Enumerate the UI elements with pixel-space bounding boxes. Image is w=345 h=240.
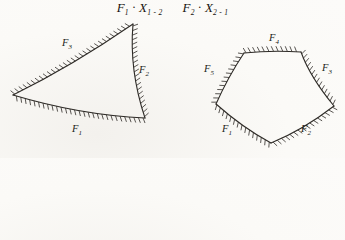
hatch-tick: [117, 29, 122, 32]
hatch-tick: [133, 29, 138, 31]
hatch-tick: [61, 107, 62, 112]
hatch-tick: [233, 119, 234, 124]
hatch-tick: [305, 58, 309, 62]
hatch-tick: [138, 118, 140, 123]
hatch-tick: [271, 46, 273, 51]
hatch-tick: [273, 142, 277, 146]
hatch-tick: [90, 46, 95, 49]
hatch-tick: [79, 111, 80, 116]
hatch-tick: [332, 107, 337, 110]
hatch-tick: [133, 56, 138, 59]
hatch-tick: [19, 87, 23, 90]
hatch-tick: [145, 113, 149, 117]
hatch-tick: [70, 109, 71, 114]
hatch-tick: [309, 66, 312, 70]
hatch-tick: [235, 57, 240, 58]
hatch-tick: [295, 47, 297, 52]
hatch-tick: [102, 39, 107, 42]
edge-label-f4: F4: [268, 32, 279, 46]
hatch-tick: [79, 53, 84, 56]
hatch-tick: [282, 138, 286, 142]
hatch-tick: [134, 117, 136, 122]
edge-label-f1: F1: [221, 123, 232, 137]
hatch-tick: [231, 65, 236, 66]
hatch-tick: [317, 118, 322, 121]
hatch-tick: [120, 116, 122, 121]
hatch-tick: [249, 130, 250, 135]
hatch-tick: [132, 47, 137, 49]
hatch-tick: [88, 112, 89, 117]
hatch-tick: [277, 140, 281, 144]
hatch-tick: [329, 110, 334, 113]
hatch-tick: [125, 23, 130, 26]
hatch-tick: [248, 48, 251, 53]
hatch-tick: [285, 46, 287, 51]
edge-f5: [216, 53, 244, 104]
hatch-tick: [67, 60, 72, 63]
hatch-tick: [228, 69, 233, 70]
hatch-tick: [52, 105, 53, 110]
hatch-tick: [307, 62, 310, 66]
hatch-tick: [253, 133, 254, 138]
edge-label-f3: F3: [321, 62, 332, 76]
hatch-tick: [302, 50, 306, 54]
hatch-tick: [106, 115, 108, 120]
hatch-tick: [325, 113, 330, 116]
hatch-tick: [143, 109, 147, 113]
curvilinear-pentagon: F4F3F2F1F5: [203, 32, 337, 148]
hatch-tick: [43, 103, 44, 108]
hatch-tick: [142, 104, 146, 108]
hatch-tick: [137, 87, 141, 90]
edge-f3: [301, 52, 334, 106]
hatch-tick: [314, 121, 319, 124]
hatch-tick: [243, 48, 246, 53]
edge-f1: [13, 95, 145, 118]
hatch-tick: [113, 31, 118, 34]
hatch-tick: [222, 111, 223, 116]
hatch-tick: [312, 70, 315, 74]
hatch-tick: [233, 61, 238, 62]
hatch-tick: [39, 76, 43, 79]
hatch-tick: [102, 114, 104, 119]
hatch-tick: [290, 134, 294, 137]
hatch-tick: [27, 82, 31, 85]
hatch-tick: [51, 69, 55, 72]
hatch-tick: [11, 91, 15, 95]
hatch-tick: [303, 54, 307, 58]
hatch-tick: [98, 41, 103, 44]
hatch-tick: [75, 110, 76, 115]
hatch-tick: [56, 106, 57, 111]
hatch-tick: [134, 65, 139, 68]
hatch-tick: [86, 48, 91, 51]
hatch-tick: [129, 117, 131, 122]
hatch-tick: [35, 78, 39, 81]
hatch-tick: [48, 104, 49, 109]
hatch-tick: [34, 101, 35, 106]
hatch-tick: [286, 136, 290, 140]
hatch-tick: [141, 100, 145, 103]
hatch-tick: [121, 26, 126, 29]
hatch-tick: [21, 97, 22, 102]
edge-label-f2: F2: [300, 123, 311, 137]
hatch-tick: [71, 58, 76, 61]
hatch-tick: [132, 42, 137, 44]
hatch-tick: [321, 115, 326, 118]
edge-label-f3: F3: [61, 37, 72, 51]
hatch-tick: [324, 89, 327, 94]
hatch-tick: [111, 115, 113, 120]
hatch-tick: [322, 85, 325, 90]
hatch-tick: [143, 118, 145, 123]
hatch-tick: [15, 89, 19, 92]
hatch-tick: [215, 105, 217, 110]
hatch-tick: [281, 46, 283, 51]
hatch-tick: [133, 60, 138, 63]
hatch-tick: [83, 51, 88, 54]
hatch-tick: [219, 108, 221, 113]
hatch-tick: [262, 47, 264, 52]
hatch-tick: [55, 67, 59, 70]
hatch-tick: [63, 63, 67, 66]
hatch-tick: [136, 82, 140, 85]
hatch-tick: [125, 117, 127, 122]
hatch-tick: [110, 34, 115, 37]
curvilinear-triangle: F3F2F1: [11, 23, 150, 136]
